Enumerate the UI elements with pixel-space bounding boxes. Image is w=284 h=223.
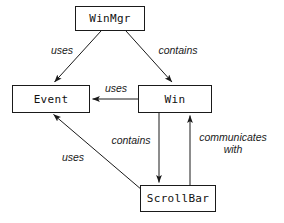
node-scrollbar-label: ScrollBar xyxy=(147,192,209,205)
edge-winmgr-win xyxy=(126,31,172,82)
edge-label-communicates-with: communicates with xyxy=(194,131,272,155)
node-winmgr[interactable]: WinMgr xyxy=(75,6,145,31)
edge-label-contains-win-scrollbar: contains xyxy=(104,134,158,146)
object-interaction-diagram: WinMgr Event Win ScrollBar uses contains… xyxy=(0,0,284,223)
edge-label-uses-scrollbar-event: uses xyxy=(56,151,90,163)
edge-winmgr-event xyxy=(55,31,102,82)
node-scrollbar[interactable]: ScrollBar xyxy=(140,185,216,212)
edge-label-uses-winmgr-event: uses xyxy=(44,44,80,56)
node-winmgr-label: WinMgr xyxy=(89,12,131,25)
node-event[interactable]: Event xyxy=(12,85,90,113)
edge-label-contains-winmgr-win: contains xyxy=(150,44,206,56)
edge-label-uses-win-event: uses xyxy=(99,82,133,94)
node-event-label: Event xyxy=(34,93,69,106)
node-win-label: Win xyxy=(165,93,186,106)
node-win[interactable]: Win xyxy=(138,85,212,113)
